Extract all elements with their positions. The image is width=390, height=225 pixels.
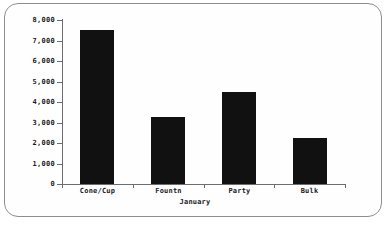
x-axis-tick xyxy=(345,184,346,188)
y-axis-tick xyxy=(57,123,62,124)
y-axis-tick xyxy=(57,82,62,83)
y-axis-tick-label: 1,000 xyxy=(32,160,55,168)
bar-chart: 8,0007,0006,0005,0004,0003,0002,0001,000… xyxy=(0,0,390,225)
y-axis-tick xyxy=(57,102,62,103)
bar xyxy=(80,30,114,184)
y-axis-tick xyxy=(57,20,62,21)
y-axis-tick-label: 7,000 xyxy=(32,37,55,45)
bar xyxy=(293,138,327,184)
x-axis-category-label: Bulk xyxy=(274,187,345,196)
y-axis-tick-label: 8,000 xyxy=(32,16,55,24)
y-axis-tick xyxy=(57,61,62,62)
y-axis-tick xyxy=(57,41,62,42)
y-axis-tick-label: 6,000 xyxy=(32,57,55,65)
y-axis-tick-label: 3,000 xyxy=(32,119,55,127)
x-axis-category-label: Party xyxy=(204,187,275,196)
x-axis-title: January xyxy=(0,198,390,206)
y-axis-tick xyxy=(57,164,62,165)
y-axis-line xyxy=(62,19,63,185)
bar xyxy=(222,92,256,184)
y-axis-tick xyxy=(57,143,62,144)
x-axis-category-label: Fountn xyxy=(133,187,204,196)
y-axis-tick-label: 5,000 xyxy=(32,78,55,86)
y-axis-tick-label: 0 xyxy=(50,180,55,188)
bar xyxy=(151,117,185,184)
y-axis-tick-label: 2,000 xyxy=(32,139,55,147)
x-axis-category-label: Cone/Cup xyxy=(62,187,133,196)
y-axis-tick-label: 4,000 xyxy=(32,98,55,106)
